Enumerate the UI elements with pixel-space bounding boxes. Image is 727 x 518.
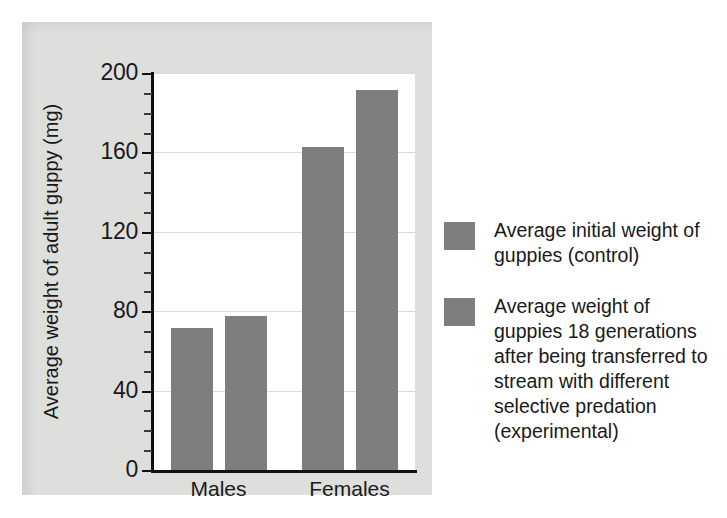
- y-tick-minor-130: [144, 212, 152, 214]
- chart-panel: 04080120160200 Average weight of adult g…: [22, 22, 432, 495]
- legend-label-2: Average weight of guppies 18 generations…: [494, 294, 720, 444]
- y-tick-minor-60: [144, 351, 152, 353]
- bar-females-experimental: [356, 90, 398, 471]
- y-tick-major-160: [142, 152, 152, 154]
- x-axis-label-females: Females: [280, 477, 420, 501]
- y-tick-minor-90: [144, 291, 152, 293]
- plot-area: [153, 74, 415, 471]
- bar-males-experimental: [225, 316, 267, 471]
- x-axis-line: [151, 470, 417, 473]
- y-tick-label-text: 160: [101, 138, 138, 165]
- legend-item-1: Average initial weight of guppies (contr…: [444, 218, 720, 268]
- legend-item-2: Average weight of guppies 18 generations…: [444, 294, 720, 444]
- y-tick-minor-180: [144, 113, 152, 115]
- legend-swatch-1: [444, 222, 475, 250]
- y-tick-label-text: 80: [113, 297, 138, 324]
- y-tick-minor-150: [144, 172, 152, 174]
- legend-label-1: Average initial weight of guppies (contr…: [494, 218, 720, 268]
- y-tick-minor-170: [144, 133, 152, 135]
- x-axis-label-males: Males: [149, 477, 289, 501]
- y-tick-label-text: 40: [113, 377, 138, 404]
- bar-males-control: [171, 328, 213, 471]
- bar-females-control: [302, 147, 344, 471]
- y-tick-major-0: [142, 470, 152, 472]
- y-tick-minor-110: [144, 252, 152, 254]
- y-tick-major-120: [142, 232, 152, 234]
- y-tick-minor-100: [144, 272, 152, 274]
- y-tick-major-80: [142, 311, 152, 313]
- gridline-200: [153, 73, 415, 74]
- y-tick-minor-70: [144, 331, 152, 333]
- y-axis-title: Average weight of adult guppy (mg): [40, 62, 63, 462]
- y-tick-minor-190: [144, 93, 152, 95]
- y-tick-label-text: 200: [101, 59, 138, 86]
- y-tick-minor-50: [144, 371, 152, 373]
- legend-swatch-2: [444, 298, 475, 326]
- y-tick-minor-10: [144, 450, 152, 452]
- y-tick-minor-30: [144, 410, 152, 412]
- chart-legend: Average initial weight of guppies (contr…: [444, 218, 720, 470]
- y-tick-label-text: 120: [101, 218, 138, 245]
- y-tick-major-40: [142, 391, 152, 393]
- y-tick-label-text: 0: [126, 456, 139, 483]
- y-tick-major-200: [142, 73, 152, 75]
- y-tick-minor-20: [144, 430, 152, 432]
- y-tick-minor-140: [144, 192, 152, 194]
